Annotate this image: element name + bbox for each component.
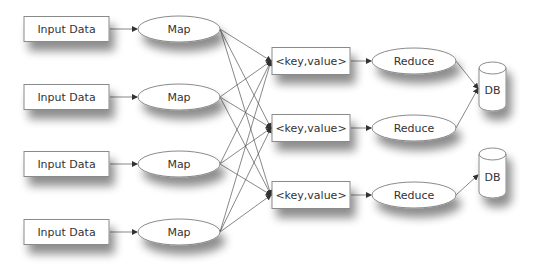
reduce-to-db-arrow — [456, 175, 478, 195]
reduce-label: Reduce — [394, 189, 435, 202]
map-node: Map — [138, 219, 220, 245]
map-node: Map — [138, 84, 220, 110]
map-label: Map — [167, 23, 190, 36]
reduce-to-db-arrow — [456, 89, 478, 129]
reduce-node: Reduce — [372, 115, 456, 141]
map-node: Map — [138, 16, 220, 42]
key-value-node: <key,value> — [272, 115, 350, 142]
input-data-node: Input Data — [24, 85, 109, 110]
key-value-label: <key,value> — [275, 189, 346, 202]
map-node: Map — [138, 151, 220, 177]
reduce-node: Reduce — [372, 182, 456, 208]
key-value-label: <key,value> — [275, 122, 346, 135]
database-icon: DB — [479, 148, 506, 198]
map-label: Map — [167, 158, 190, 171]
shuffle-arrow — [220, 29, 271, 61]
database-label: DB — [484, 84, 500, 97]
input-data-node: Input Data — [24, 17, 109, 42]
reduce-node: Reduce — [372, 48, 456, 74]
shuffle-arrow — [220, 61, 271, 232]
key-value-node: <key,value> — [272, 48, 350, 75]
key-value-label: <key,value> — [275, 55, 346, 68]
input-data-label: Input Data — [37, 91, 95, 104]
input-data-label: Input Data — [37, 226, 95, 239]
mapreduce-diagram: Input DataInput DataInput DataInput Data… — [0, 0, 542, 273]
input-data-label: Input Data — [37, 158, 95, 171]
map-label: Map — [167, 91, 190, 104]
database-icon: DB — [479, 62, 506, 111]
diagram-nodes: Input DataInput DataInput DataInput Data… — [24, 16, 506, 245]
key-value-node: <key,value> — [272, 182, 350, 209]
database-label: DB — [484, 171, 500, 184]
reduce-to-db-arrow — [456, 61, 478, 89]
input-data-node: Input Data — [24, 152, 109, 177]
map-label: Map — [167, 226, 190, 239]
reduce-label: Reduce — [394, 55, 435, 68]
shuffle-arrow — [220, 61, 271, 97]
reduce-label: Reduce — [394, 122, 435, 135]
input-data-label: Input Data — [37, 23, 95, 36]
shuffle-arrow — [220, 195, 271, 232]
input-data-node: Input Data — [24, 220, 109, 245]
